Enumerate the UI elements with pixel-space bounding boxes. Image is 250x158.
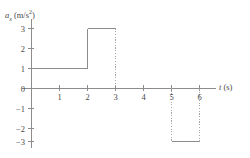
x-tick-label-6: 6: [197, 93, 201, 102]
chart-plot-area: [0, 0, 250, 158]
y-tick-label-1: 1: [21, 64, 25, 73]
x-axis-title-symbol: t: [219, 82, 221, 92]
x-tick-label-3: 3: [113, 93, 117, 102]
x-tick-label-1: 1: [57, 93, 61, 102]
y-tick-label-neg1: −1: [16, 104, 25, 113]
y-tick-label-0: 0: [21, 84, 25, 93]
x-tick-label-5: 5: [169, 93, 173, 102]
y-tick-label-3: 3: [21, 24, 25, 33]
x-tick-label-2: 2: [85, 93, 89, 102]
x-tick-label-4: 4: [141, 93, 145, 102]
y-tick-label-neg2: −2: [16, 124, 25, 133]
x-axis-title-units: (s): [223, 82, 232, 92]
y-axis-title-units-open: (m/s: [14, 10, 29, 20]
y-tick-label-2: 2: [21, 44, 25, 53]
x-axis-title: t(s): [219, 83, 232, 92]
chart-figure: 3 2 1 0 −1 −2 −3 1 2 3 4 5 6 ax(m/s2) t(…: [0, 0, 250, 158]
y-axis-title-subscript: x: [9, 16, 12, 22]
y-axis-title-units-close: ): [32, 10, 35, 20]
y-tick-label-neg3: −3: [16, 137, 25, 146]
y-axis-title: ax(m/s2): [5, 9, 35, 22]
